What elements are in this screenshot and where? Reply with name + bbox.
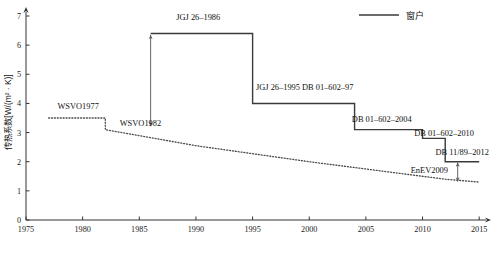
solid-series-path [151, 33, 480, 161]
y-tick-labels: 01234567 [17, 12, 30, 225]
x-tick-labels: 197519801985199019952000200520102015 [18, 217, 488, 234]
annotation-db-01-602-2004: DB 01–602–2004 [352, 115, 413, 124]
annotation-jgj-26-1995-db-01-602-97: JGJ 26–1995 DB 01–602–97 [256, 83, 353, 92]
y-axis-title: 传热系数[W/(m² · K)] [3, 74, 13, 149]
series-solid-window [151, 33, 480, 161]
annotation-wsvo1977: WSVO1977 [57, 102, 98, 111]
y-tick-label: 7 [17, 12, 21, 21]
y-tick-label: 6 [17, 41, 21, 50]
x-tick-label: 2005 [358, 225, 374, 234]
x-tick-label: 2015 [471, 225, 487, 234]
x-tick-label: 1995 [244, 225, 260, 234]
annotation-jgj-26-1986: JGJ 26–1986 [176, 13, 220, 22]
annotation-db-11-89-2012: DB 11/89–2012 [435, 148, 488, 157]
axis-lines [26, 12, 486, 220]
annotations-group: JGJ 26–1986JGJ 26–1995 DB 01–602–97DB 01… [57, 13, 489, 174]
y-axis-title-group: 传热系数[W/(m² · K)] [3, 74, 13, 149]
y-tick-label: 3 [17, 129, 21, 138]
x-tick-label: 1975 [18, 225, 34, 234]
x-tick-label: 1980 [74, 225, 90, 234]
y-tick-label: 1 [17, 187, 21, 196]
axes-group [23, 7, 491, 223]
annotation-wsvo1982: WSVO1982 [120, 119, 161, 128]
y-tick-label: 5 [17, 70, 21, 79]
y-tick-label: 2 [17, 158, 21, 167]
gap-arrows-group [149, 35, 460, 182]
chart-svg: 01234567 1975198019851990199520002005201… [0, 0, 494, 258]
x-tick-label: 1990 [188, 225, 204, 234]
x-tick-label: 2000 [301, 225, 317, 234]
x-tick-label: 2010 [414, 225, 430, 234]
annotation-enev2009: EnEV2009 [411, 166, 448, 175]
annotation-db-01-602-2010: DB 01–602–2010 [414, 129, 474, 138]
legend-label: 窗户 [406, 10, 424, 21]
x-tick-label: 1985 [131, 225, 147, 234]
y-tick-label: 4 [17, 99, 21, 108]
legend-group: 窗户 [359, 10, 424, 21]
chart-container: 01234567 1975198019851990199520002005201… [0, 0, 494, 258]
